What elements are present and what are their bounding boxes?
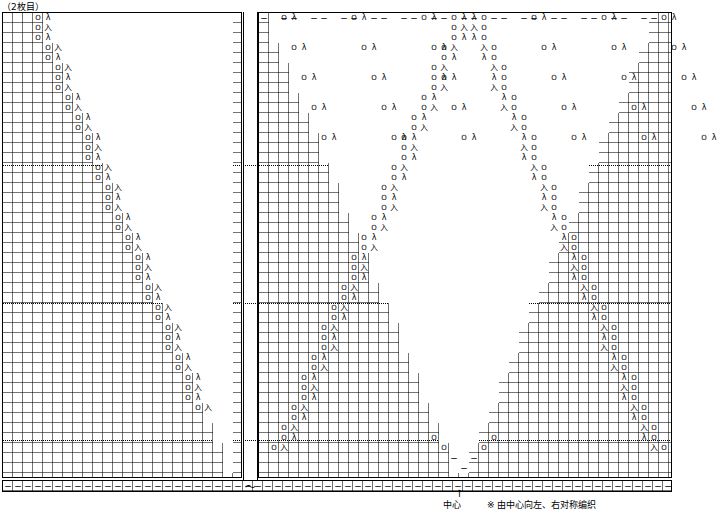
stitch-symbol: O [539, 163, 549, 173]
stitch-symbol: O [679, 73, 689, 83]
blank-region [389, 303, 529, 313]
stitch-symbol: − [639, 13, 649, 23]
blank-region [399, 333, 519, 343]
stitch-symbol: − [363, 481, 373, 491]
stitch-symbol: O [379, 103, 389, 113]
stitch-symbol: λ [449, 53, 459, 63]
stitch-symbol: O [549, 203, 559, 213]
stitch-symbol: O [639, 403, 649, 413]
stitch-symbol: − [343, 481, 353, 491]
stitch-symbol: λ [549, 43, 559, 53]
stitch-symbol: 入 [309, 383, 319, 393]
stitch-symbol: 入 [579, 283, 589, 293]
stitch-symbol: − [399, 13, 409, 23]
stitch-symbol: − [213, 481, 223, 491]
stitch-symbol: O [629, 393, 639, 403]
stitch-symbol: O [359, 243, 369, 253]
blank-region [379, 293, 539, 303]
stitch-symbol: 入 [319, 363, 329, 373]
stitch-symbol: 入 [53, 43, 63, 53]
stitch-symbol: O [459, 133, 469, 143]
blank-region [429, 403, 489, 413]
stitch-symbol: − [459, 463, 469, 473]
stitch-symbol: 入 [649, 443, 659, 453]
stitch-symbol: O [609, 333, 619, 343]
stitch-symbol: − [609, 13, 619, 23]
stitch-symbol: O [133, 253, 143, 263]
stitch-symbol: O [659, 13, 669, 23]
stitch-symbol: O [569, 133, 579, 143]
stitch-symbol: λ [559, 233, 569, 243]
stitch-symbol: O [93, 163, 103, 173]
blank-region [153, 293, 233, 303]
stitch-symbol: λ [699, 103, 709, 113]
blank-region [379, 283, 539, 293]
stitch-symbol: O [479, 13, 489, 23]
stitch-symbol: O [83, 153, 93, 163]
stitch-symbol: O [379, 203, 389, 213]
stitch-symbol: λ [519, 153, 529, 163]
stitch-symbol: O [399, 143, 409, 153]
stitch-symbol: − [43, 481, 53, 491]
stitch-symbol: − [613, 481, 623, 491]
stitch-symbol: − [153, 481, 163, 491]
blank-region [43, 33, 233, 43]
stitch-symbol: O [163, 343, 173, 353]
blank-region [399, 343, 519, 353]
stitch-symbol: 入 [419, 123, 429, 133]
stitch-symbol: O [429, 73, 439, 83]
blank-region [369, 263, 549, 273]
stitch-symbol: − [463, 481, 473, 491]
stitch-symbol: λ [549, 213, 559, 223]
stitch-symbol: O [479, 33, 489, 43]
stitch-symbol: − [283, 481, 293, 491]
stitch-symbol: λ [669, 13, 679, 23]
stitch-symbol: O [569, 243, 579, 253]
stitch-symbol: − [433, 481, 443, 491]
stitch-symbol: − [339, 13, 349, 23]
stitch-symbol: λ [339, 313, 349, 323]
stitch-symbol: λ [309, 393, 319, 403]
stitch-symbol: λ [43, 33, 53, 43]
blank-region [369, 253, 549, 263]
stitch-symbol: λ [183, 353, 193, 363]
stitch-symbol: λ [289, 433, 299, 443]
stitch-symbol: λ [569, 103, 579, 113]
blank-region [439, 423, 479, 433]
stitch-symbol: O [103, 193, 113, 203]
stitch-symbol: O [359, 43, 369, 53]
stitch-symbol: − [263, 481, 273, 491]
stitch-symbol: O [599, 303, 609, 313]
stitch-symbol: λ [529, 173, 539, 183]
stitch-symbol: λ [193, 373, 203, 383]
blank-region [93, 143, 233, 153]
stitch-symbol: − [319, 13, 329, 23]
stitch-symbol: λ [83, 113, 93, 123]
stitch-symbol: λ [349, 293, 359, 303]
stitch-symbol: λ [173, 333, 183, 343]
stitch-symbol: λ [539, 13, 549, 23]
stitch-symbol: O [299, 383, 309, 393]
blank-region [279, 43, 639, 53]
stitch-symbol: 入 [289, 423, 299, 433]
stitch-symbol: 入 [429, 103, 439, 113]
stitch-symbol: λ [619, 373, 629, 383]
stitch-symbol: O [103, 183, 113, 193]
stitch-symbol: − [563, 481, 573, 491]
stitch-symbol: − [489, 13, 499, 23]
blank-region [223, 453, 233, 463]
blank-region [319, 143, 599, 153]
stitch-symbol: λ [559, 73, 569, 83]
blank-region [73, 93, 233, 103]
stitch-symbol: λ [309, 73, 319, 83]
stitch-symbol: O [113, 223, 123, 233]
stitch-symbol: O [419, 93, 429, 103]
stitch-symbol: − [459, 13, 469, 23]
stitch-symbol: O [669, 43, 679, 53]
stitch-symbol: − [473, 481, 483, 491]
stitch-symbol: λ [489, 73, 499, 83]
stitch-symbol: − [349, 13, 359, 23]
blank-region [319, 153, 599, 163]
stitch-symbol: − [173, 481, 183, 491]
stitch-symbol: λ [133, 233, 143, 243]
